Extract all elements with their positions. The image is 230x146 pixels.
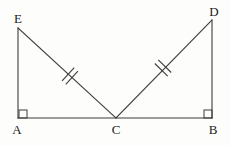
tick-mark [158,60,171,73]
vertex-label-D: D [209,5,218,18]
vertex-label-B: B [209,123,218,136]
vertex-label-C: C [112,123,121,136]
right-angle-marker-B [204,110,212,118]
segment-CD-hypotenuse [116,20,212,118]
triangle-EAC [18,28,116,118]
right-angle-marker-A [19,110,27,118]
vertex-label-A: A [12,123,21,136]
geometry-diagram-canvas: E D A C B [0,0,230,146]
vertex-label-E: E [14,12,22,25]
tick-mark [155,63,168,76]
triangle-DBC [116,20,212,118]
tick-marks-segment-CD [155,60,171,76]
segment-EC-hypotenuse [18,28,116,118]
